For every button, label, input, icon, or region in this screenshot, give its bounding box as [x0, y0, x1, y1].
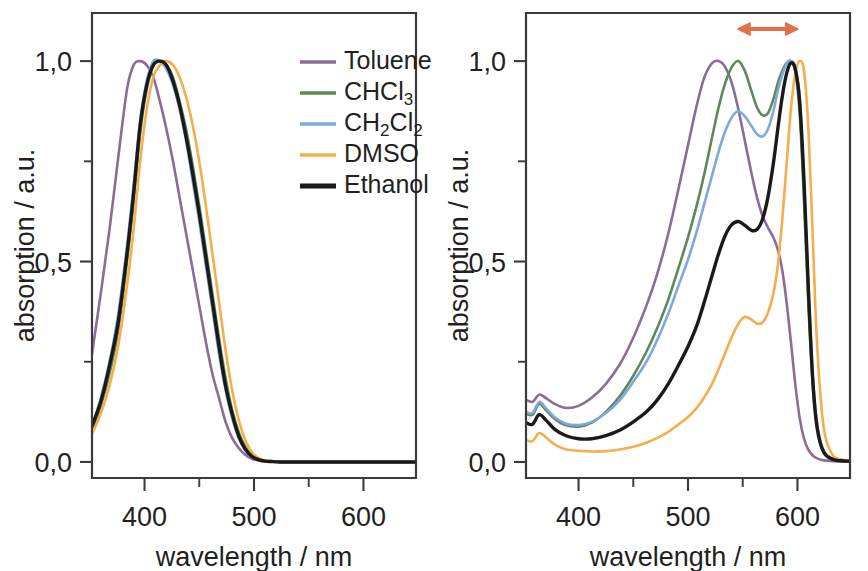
x-ticklabel: 400 [122, 502, 167, 532]
absorption-spectra-figure: 0,00,51,0400500600wavelength / nmabsorpt… [0, 0, 868, 571]
y-ticklabel: 0,0 [468, 448, 506, 478]
y-ticklabel: 0,5 [34, 248, 72, 278]
x-ticklabel: 500 [665, 502, 710, 532]
x-ticklabel: 600 [775, 502, 820, 532]
legend-label-ch2cl2: CH2Cl2 [344, 108, 423, 141]
legend-label-toluene: Toluene [344, 46, 432, 74]
spectra-panel-b: 0,00,51,0400500600wavelength / nmabsorpt… [434, 0, 868, 571]
panel-a-plot: 0,00,51,0400500600wavelength / nmabsorpt… [0, 0, 434, 571]
arrowhead-left [737, 23, 750, 36]
x-ticklabel: 500 [231, 502, 276, 532]
x-axis-title: wavelength / nm [155, 542, 353, 571]
y-ticklabel: 0,0 [34, 448, 72, 478]
y-ticklabel: 1,0 [468, 47, 506, 77]
legend-label-dmso: DMSO [344, 139, 419, 167]
legend: TolueneCHCl3CH2Cl2DMSOEthanol [300, 46, 432, 198]
y-axis-title: absorption / a.u. [10, 149, 40, 343]
y-ticklabel: 0,5 [468, 248, 506, 278]
spectra-panel-a: 0,00,51,0400500600wavelength / nmabsorpt… [0, 0, 434, 571]
y-axis-title: absorption / a.u. [444, 149, 474, 343]
y-ticklabel: 1,0 [34, 47, 72, 77]
panel-b-plot: 0,00,51,0400500600wavelength / nmabsorpt… [434, 0, 868, 571]
arrowhead-right [786, 23, 799, 36]
bathochromic-shift-arrow [737, 23, 798, 36]
legend-label-ethanol: Ethanol [344, 170, 429, 198]
x-ticklabel: 400 [556, 502, 601, 532]
series-group-b [526, 61, 850, 462]
x-ticklabel: 600 [341, 502, 386, 532]
legend-label-chcl3: CHCl3 [344, 77, 413, 110]
x-axis-title: wavelength / nm [589, 542, 787, 571]
